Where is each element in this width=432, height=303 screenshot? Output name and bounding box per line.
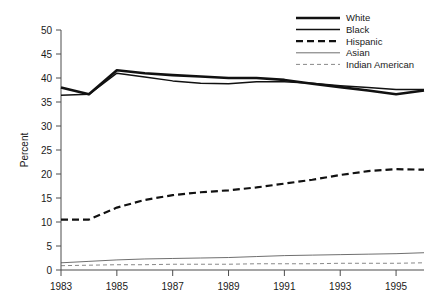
legend-label-black: Black [346,24,369,35]
y-axis-tick-labels: 05101520253035404550 [41,25,53,276]
data-series-group [61,70,424,265]
y-tick-label: 5 [46,241,52,252]
y-axis-ticks [56,30,61,270]
x-tick-label: 1983 [50,281,73,292]
x-tick-label: 1985 [106,281,129,292]
y-tick-label: 35 [41,97,53,108]
y-tick-label: 50 [41,25,53,36]
x-tick-label: 1987 [162,281,185,292]
series-line-hispanic [61,169,424,219]
x-axis-tick-labels: 1983198519871989199119931995 [50,281,408,292]
x-axis: 1983198519871989199119931995 [50,270,424,292]
y-tick-label: 25 [41,145,53,156]
chart-figure: 05101520253035404550 Percent 19831985198… [0,0,432,303]
series-line-asian [61,253,424,263]
legend-label-hispanic: Hispanic [346,36,383,47]
y-tick-label: 20 [41,169,53,180]
y-tick-label: 10 [41,217,53,228]
legend-label-indian-american: Indian American [346,59,414,70]
x-tick-label: 1989 [217,281,240,292]
legend-label-asian: Asian [346,47,370,58]
y-tick-label: 45 [41,49,53,60]
y-tick-label: 0 [46,265,52,276]
x-tick-label: 1991 [273,281,296,292]
x-tick-label: 1995 [385,281,408,292]
y-axis: 05101520253035404550 Percent [19,25,61,276]
y-axis-title: Percent [19,133,30,168]
y-tick-label: 40 [41,73,53,84]
y-tick-label: 15 [41,193,53,204]
y-tick-label: 30 [41,121,53,132]
x-axis-ticks [61,270,396,276]
series-line-indian-american [61,263,424,266]
legend-label-white: White [346,12,370,23]
line-chart-canvas: 05101520253035404550 Percent 19831985198… [0,0,432,303]
x-tick-label: 1993 [329,281,352,292]
chart-legend: WhiteBlackHispanicAsianIndian American [296,12,414,69]
